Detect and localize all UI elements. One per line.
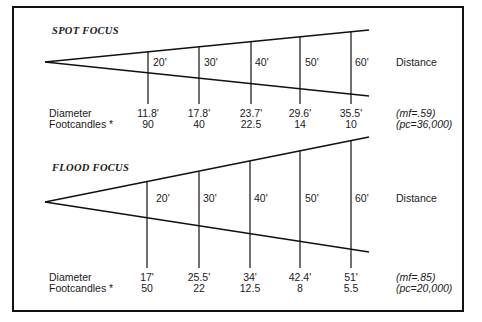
spot-distance-20: 20' [153,56,167,68]
spot-distance-30: 30' [204,56,218,68]
flood-footcandles-30: 22 [179,282,219,294]
flood-distance-20: 20' [156,192,170,204]
flood-footcandles-40: 12.5 [230,282,270,294]
spot-distance-50: 50' [305,56,319,68]
flood-footcandles-20: 50 [127,282,167,294]
flood-pc-note: (pc=20,000) [396,282,452,294]
spot-distance-40: 40' [255,56,269,68]
flood-distance-40: 40' [254,192,268,204]
spot-footcandles-60: 10 [331,118,371,130]
spot-focus-title: SPOT FOCUS [52,25,119,36]
spot-footcandles-40: 22.5 [231,118,271,130]
spot-pc-note: (pc=36,000) [396,118,452,130]
spot-distance-60: 60' [355,56,369,68]
spot-footcandles-label: Footcandles * [49,118,113,130]
flood-distance-markers [147,141,351,268]
spot-footcandles-50: 14 [280,118,320,130]
flood-footcandles-label: Footcandles * [49,282,113,294]
flood-distance-30: 30' [203,192,217,204]
flood-footcandles-60: 5.5 [331,282,371,294]
spot-distance-label: Distance [396,56,437,68]
flood-footcandles-50: 8 [280,282,320,294]
flood-distance-label: Distance [396,192,437,204]
flood-distance-60: 60' [355,192,369,204]
flood-distance-50: 50' [305,192,319,204]
spot-distance-markers [148,32,351,104]
flood-focus-title: FLOOD FOCUS [52,162,129,173]
spot-footcandles-20: 90 [128,118,168,130]
spot-footcandles-30: 40 [179,118,219,130]
